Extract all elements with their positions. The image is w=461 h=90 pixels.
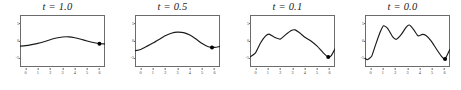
x-tick-mark — [87, 68, 88, 70]
x-tick-label: 4 — [304, 70, 306, 75]
x-axis-tick-labels-3: 0123456 — [250, 70, 335, 78]
x-tick-label: 5 — [316, 70, 318, 75]
x-tick-label: 2 — [49, 70, 51, 75]
x-tick-label: 0 — [369, 70, 371, 75]
multi-panel-line-chart-figure: t = 1.0 -505 0123456 t = 0.5 -505 012345… — [0, 0, 461, 90]
x-tick-mark — [292, 68, 293, 70]
x-tick-mark — [383, 68, 384, 70]
curve-path — [250, 30, 335, 57]
x-tick-label: 6 — [213, 70, 215, 75]
data-point-marker — [210, 45, 214, 49]
x-tick-label: 3 — [406, 70, 408, 75]
x-tick-mark — [189, 68, 190, 70]
x-tick-label: 1 — [267, 70, 269, 75]
x-tick-label: 2 — [394, 70, 396, 75]
x-tick-label: 5 — [201, 70, 203, 75]
panel-title-2: t = 0.5 — [115, 0, 230, 13]
x-tick-mark — [395, 68, 396, 70]
x-tick-mark — [74, 68, 75, 70]
x-tick-mark — [407, 68, 408, 70]
x-tick-label: 0 — [24, 70, 26, 75]
curve-path — [135, 32, 220, 51]
x-tick-mark — [304, 68, 305, 70]
x-tick-mark — [432, 68, 433, 70]
x-axis-tick-labels-1: 0123456 — [20, 70, 105, 78]
x-tick-label: 1 — [152, 70, 154, 75]
x-tick-label: 0 — [254, 70, 256, 75]
x-tick-label: 2 — [279, 70, 281, 75]
chart-panel-4: t = 0.0 -505 0123456 — [345, 0, 460, 90]
x-axis-tick-labels-4: 0123456 — [365, 70, 450, 78]
data-point-marker — [326, 55, 330, 59]
plot-area-4 — [365, 15, 450, 67]
y-axis-tick-labels-3: -505 — [238, 15, 249, 67]
x-tick-mark — [50, 68, 51, 70]
x-tick-mark — [370, 68, 371, 70]
x-tick-mark — [165, 68, 166, 70]
x-tick-label: 6 — [98, 70, 100, 75]
x-tick-label: 4 — [189, 70, 191, 75]
x-tick-label: 3 — [291, 70, 293, 75]
x-tick-mark — [280, 68, 281, 70]
chart-panel-3: t = 0.1 -505 0123456 — [230, 0, 345, 90]
x-tick-label: 6 — [443, 70, 445, 75]
data-point-marker — [97, 42, 101, 46]
x-tick-mark — [177, 68, 178, 70]
x-tick-mark — [329, 68, 330, 70]
y-axis-tick-labels-2: -505 — [123, 15, 134, 67]
x-tick-label: 1 — [37, 70, 39, 75]
y-axis-tick-labels-1: -505 — [8, 15, 19, 67]
x-tick-mark — [153, 68, 154, 70]
x-tick-mark — [214, 68, 215, 70]
panel-title-1: t = 1.0 — [0, 0, 115, 13]
x-tick-mark — [202, 68, 203, 70]
panel-title-3: t = 0.1 — [230, 0, 345, 13]
curve-path — [20, 37, 105, 46]
curve-4 — [365, 15, 450, 67]
y-axis-tick-labels-4: -505 — [353, 15, 364, 67]
data-point-marker — [443, 57, 447, 61]
plot-area-3 — [250, 15, 335, 67]
x-tick-mark — [140, 68, 141, 70]
chart-panel-1: t = 1.0 -505 0123456 — [0, 0, 115, 90]
x-tick-mark — [99, 68, 100, 70]
x-tick-label: 4 — [419, 70, 421, 75]
x-tick-mark — [25, 68, 26, 70]
x-tick-mark — [317, 68, 318, 70]
curve-3 — [250, 15, 335, 67]
x-tick-label: 4 — [74, 70, 76, 75]
x-tick-label: 0 — [139, 70, 141, 75]
x-tick-label: 3 — [61, 70, 63, 75]
x-tick-label: 5 — [86, 70, 88, 75]
x-tick-mark — [268, 68, 269, 70]
x-tick-mark — [255, 68, 256, 70]
curve-2 — [135, 15, 220, 67]
x-tick-label: 2 — [164, 70, 166, 75]
x-tick-label: 3 — [176, 70, 178, 75]
x-tick-label: 6 — [328, 70, 330, 75]
x-tick-label: 5 — [431, 70, 433, 75]
chart-panel-2: t = 0.5 -505 0123456 — [115, 0, 230, 90]
x-tick-mark — [38, 68, 39, 70]
curve-path — [365, 25, 450, 60]
x-tick-mark — [419, 68, 420, 70]
curve-1 — [20, 15, 105, 67]
panel-title-4: t = 0.0 — [345, 0, 460, 13]
x-tick-mark — [62, 68, 63, 70]
plot-area-1 — [20, 15, 105, 67]
plot-area-2 — [135, 15, 220, 67]
x-tick-label: 1 — [382, 70, 384, 75]
x-axis-tick-labels-2: 0123456 — [135, 70, 220, 78]
x-tick-mark — [444, 68, 445, 70]
